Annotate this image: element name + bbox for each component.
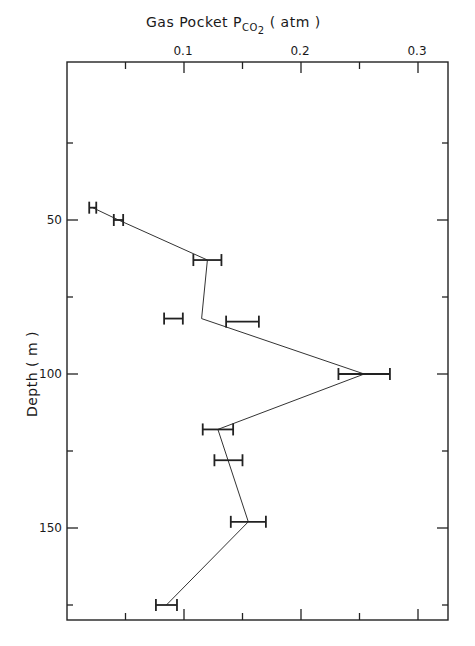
data-line <box>93 208 365 605</box>
plot-frame <box>67 62 448 620</box>
plot-area <box>0 0 475 646</box>
